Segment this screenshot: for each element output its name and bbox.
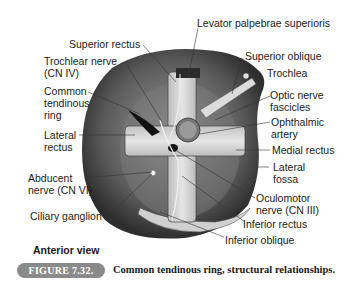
label-lateral-fossa: Lateral — [273, 161, 305, 173]
label-levator: Levator palpebrae superioris — [197, 17, 330, 29]
label-trochlear-nerve-cn: (CN IV) — [44, 67, 79, 79]
label-inferior-oblique: Inferior oblique — [225, 234, 294, 246]
figure-caption: Common tendinous ring, structural relati… — [113, 264, 335, 275]
label-superior-oblique: Superior oblique — [245, 50, 321, 62]
label-ring: ring — [44, 109, 62, 121]
label-medial-rectus: Medial rectus — [272, 144, 334, 156]
label-trochlear-nerve: Trochlear nerve — [44, 55, 117, 67]
label-oculomotor-nerve: nerve (CN III) — [256, 204, 319, 216]
label-lateral-fossa-2: fossa — [273, 173, 298, 185]
label-inferior-rectus: Inferior rectus — [243, 218, 307, 230]
label-lateral-rectus: Lateral — [44, 129, 76, 141]
label-lateral-rectus-2: rectus — [44, 141, 73, 153]
label-ciliary-ganglion: Ciliary ganglion — [30, 210, 102, 222]
label-abducent: Abducent — [28, 172, 72, 184]
figure-number-badge: FIGURE 7.32. — [17, 263, 105, 278]
label-optic-fascicles: fascicles — [270, 101, 310, 113]
label-ophthalmic: Ophthalmic — [271, 116, 324, 128]
label-tendinous: tendinous — [44, 97, 90, 109]
label-optic-nerve: Optic nerve — [270, 89, 324, 101]
label-ophthalmic-artery: artery — [271, 128, 298, 140]
anatomy-figure: Superior rectus Trochlear nerve (CN IV) … — [0, 0, 358, 291]
label-abducent-nerve: nerve (CN VI) — [28, 184, 92, 196]
view-label: Anterior view — [33, 244, 100, 256]
label-superior-rectus: Superior rectus — [69, 38, 140, 50]
label-common: Common — [44, 85, 87, 97]
label-oculomotor: Oculomotor — [256, 192, 310, 204]
label-trochlea: Trochlea — [267, 67, 307, 79]
